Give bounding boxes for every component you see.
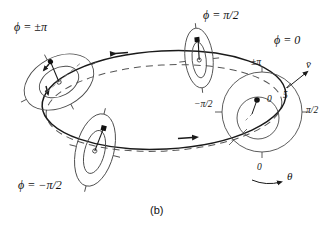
label-tick-left-minus-pi-half: −π/2: [194, 99, 213, 109]
label-theta: θ: [287, 170, 292, 182]
dashed-orbit-ellipse: [44, 59, 284, 157]
spiral-cluster-phi-minus-pi-half: [59, 102, 130, 198]
label-velocity-v-bar: v̄: [306, 58, 311, 70]
spiral-cluster-phi-pi-half: [175, 21, 222, 95]
flow-arrow-left-upper: [44, 64, 49, 70]
label-phi-zero: ϕ = 0: [274, 33, 300, 48]
figure-caption: (b): [150, 204, 163, 216]
label-tick-top-pm-pi: ±π: [251, 57, 261, 67]
flow-arrow-bottom: [178, 137, 196, 138]
label-radial-inner-0: 0: [267, 94, 272, 104]
flow-arrow-top: [112, 53, 128, 54]
label-phi-pm-pi: ϕ = ±π: [14, 20, 47, 35]
figure-container: ϕ = ±π ϕ = π/2 ϕ = 0 ϕ = −π/2 ±π −π/2 π/…: [0, 0, 333, 231]
label-radial-outer-5: 5: [283, 90, 288, 100]
label-phi-pi-half: ϕ = π/2: [203, 8, 239, 23]
label-tick-bottom-zero: 0: [257, 162, 262, 172]
velocity-arrow: [287, 72, 307, 88]
label-phi-minus-pi-half: ϕ = −π/2: [18, 178, 62, 193]
theta-arrow: [252, 180, 281, 184]
polar-axis-cluster-phi-zero: [215, 66, 309, 158]
label-tick-right-pi-half: π/2: [306, 105, 318, 115]
